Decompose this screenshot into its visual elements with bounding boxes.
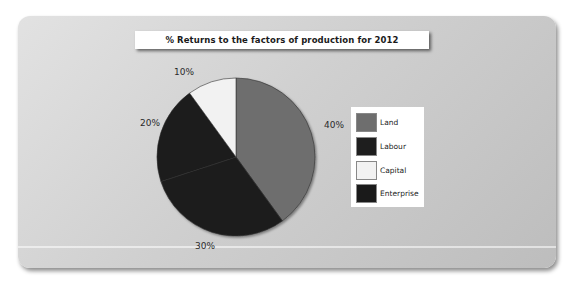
legend-item-labour: Labour [356, 136, 406, 156]
chart-title-text: % Returns to the factors of production f… [165, 35, 398, 45]
legend-swatch-land [356, 113, 377, 132]
label-enterprise: 20% [140, 118, 160, 128]
legend-item-land: Land [356, 112, 398, 132]
legend-item-capital: Capital [356, 160, 406, 180]
label-capital: 10% [174, 67, 194, 77]
pie-chart: 10% 40% 20% 30% [140, 60, 340, 260]
chart-title: % Returns to the factors of production f… [135, 31, 429, 49]
legend-swatch-capital [356, 161, 377, 180]
legend-swatch-labour [356, 137, 377, 156]
legend-swatch-enterprise [356, 184, 377, 203]
pie-slices [157, 78, 315, 236]
legend: Land Labour Capital Enterprise [351, 107, 424, 207]
label-land: 40% [324, 120, 344, 130]
legend-item-enterprise: Enterprise [356, 183, 419, 203]
label-labour: 30% [195, 241, 215, 251]
pie-svg [140, 60, 340, 260]
